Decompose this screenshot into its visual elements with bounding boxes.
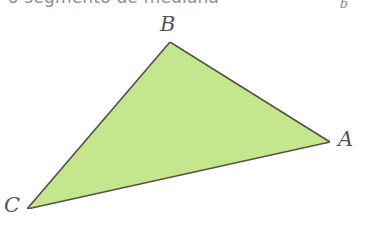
geometry-figure: o segmento de mediana b B A C	[0, 0, 366, 225]
vertex-label-c: C	[4, 195, 20, 216]
vertex-label-a: A	[338, 129, 353, 150]
triangle-drawing	[0, 0, 366, 225]
vertex-label-b: B	[160, 14, 175, 35]
triangle-polygon	[27, 42, 330, 209]
